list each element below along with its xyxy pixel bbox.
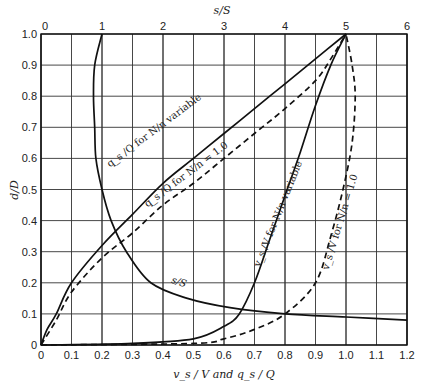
- y-tick-label: 0: [31, 339, 37, 351]
- x-tick-label: 0.8: [277, 349, 292, 361]
- top-tick-label: 3: [221, 20, 227, 32]
- y-axis-ticks: 00.10.20.30.40.50.60.70.80.91.0: [22, 28, 37, 351]
- label-qs-one: q_s /Q for N/n = 1.0: [142, 139, 230, 210]
- top-tick-label: 1: [99, 20, 105, 32]
- x-tick-label: 1.1: [369, 349, 384, 361]
- x-tick-label: 0.7: [247, 349, 262, 361]
- label-vs-variable: v_s /V for N/n variable: [251, 159, 305, 269]
- top-tick-label: 2: [160, 20, 166, 32]
- top-tick-label: 0: [42, 20, 48, 32]
- x-tick-label: 0.5: [186, 349, 201, 361]
- y-tick-label: 0.4: [22, 215, 37, 227]
- y-tick-label: 0.7: [22, 121, 37, 133]
- x-tick-label: 0.3: [125, 349, 140, 361]
- x-tick-label: 0.6: [216, 349, 231, 361]
- top-axis-label: s/S: [214, 4, 231, 17]
- top-tick-label: 4: [282, 20, 288, 32]
- x-tick-label: 0.4: [155, 349, 170, 361]
- y-tick-label: 0.1: [22, 308, 37, 320]
- y-axis-label: d/D: [8, 180, 21, 200]
- x-tick-label: 0.1: [64, 349, 79, 361]
- label-s-over-S: s/S: [170, 274, 188, 289]
- x-tick-label: 0.2: [94, 349, 109, 361]
- y-tick-label: 0.8: [22, 90, 37, 102]
- x-tick-label: 1.2: [399, 349, 414, 361]
- label-vs-one: v_s /V for N/n = 1.0: [320, 173, 361, 273]
- x-axis-ticks: 00.10.20.30.40.50.60.70.80.91.01.11.2: [38, 349, 415, 361]
- top-tick-label: 5: [343, 20, 349, 32]
- y-tick-label: 1.0: [22, 28, 37, 40]
- y-tick-label: 0.2: [22, 277, 37, 289]
- hydraulic-elements-chart: 00.10.20.30.40.50.60.70.80.91.01.11.2 01…: [0, 0, 426, 385]
- x-axis-label: v_s / V and q_s / Q: [173, 368, 275, 381]
- y-tick-label: 0.9: [22, 59, 37, 71]
- y-tick-label: 0.5: [22, 184, 37, 196]
- y-tick-label: 0.6: [22, 152, 37, 164]
- x-tick-label: 1.0: [338, 349, 353, 361]
- x-tick-label: 0: [38, 349, 44, 361]
- x-tick-label: 0.9: [308, 349, 323, 361]
- y-tick-label: 0.3: [22, 246, 37, 258]
- curve-s-s: [93, 34, 407, 320]
- top-axis-ticks: 0123456: [42, 20, 410, 32]
- top-tick-label: 6: [404, 20, 410, 32]
